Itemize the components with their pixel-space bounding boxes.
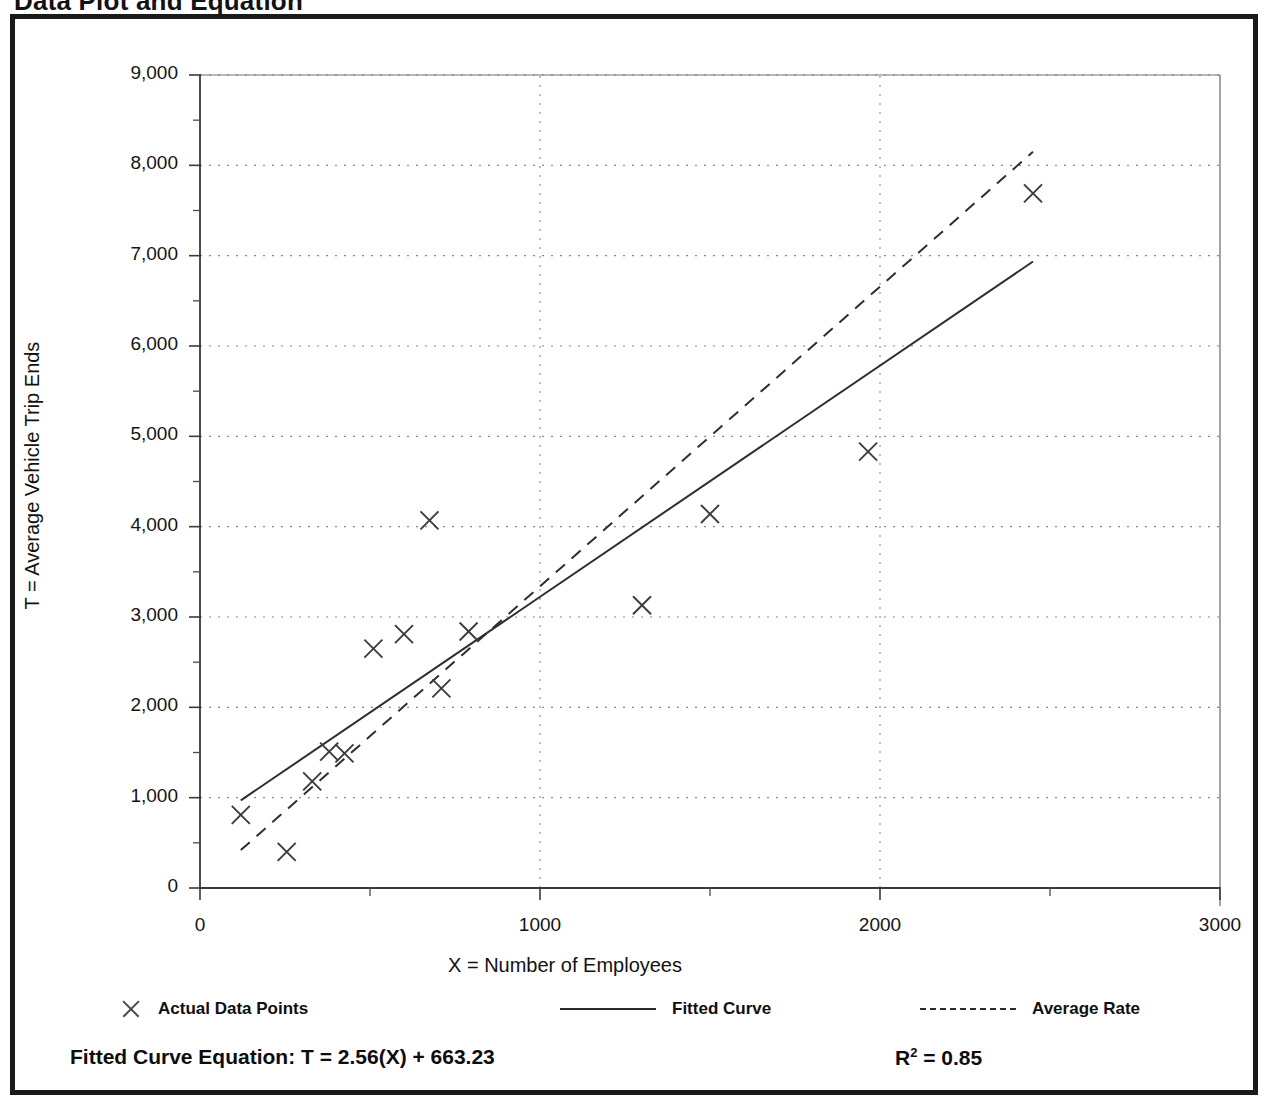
y-tick-label: 8,000 [88, 152, 178, 174]
plot-area: 01,0002,0003,0004,0005,0006,0007,0008,00… [15, 19, 1263, 1100]
data-point-marker [421, 511, 439, 529]
axis-ticks [189, 75, 1220, 900]
legend-item-fitted-curve[interactable]: Fitted Curve [560, 994, 771, 1024]
y-tick-label: 6,000 [88, 333, 178, 355]
data-point-marker [1024, 184, 1042, 202]
y-tick-label: 5,000 [88, 423, 178, 445]
y-tick-label: 7,000 [88, 243, 178, 265]
data-point-marker [859, 443, 877, 461]
chart-legend: Actual Data Points Fitted Curve Average … [15, 994, 1263, 1038]
y-tick-label: 3,000 [88, 604, 178, 626]
y-tick-label: 1,000 [88, 785, 178, 807]
fitted-curve-line [241, 262, 1033, 801]
legend-label-average-rate: Average Rate [1032, 999, 1140, 1019]
x-tick-label: 0 [155, 914, 245, 936]
data-point-markers [232, 184, 1042, 861]
r-squared-symbol: R [895, 1046, 910, 1069]
data-point-marker [232, 806, 250, 824]
x-axis-title: X = Number of Employees [15, 954, 1115, 977]
chart-canvas [15, 19, 1263, 1100]
equation-row: Fitted Curve Equation: T = 2.56(X) + 663… [15, 1041, 1263, 1087]
y-axis-title: T = Average Vehicle Trip Ends [21, 256, 44, 696]
y-tick-label: 9,000 [88, 62, 178, 84]
figure-frame: 01,0002,0003,0004,0005,0006,0007,0008,00… [10, 14, 1258, 1095]
data-point-marker [633, 596, 651, 614]
data-point-marker [432, 679, 450, 697]
r-squared-number: = 0.85 [917, 1046, 982, 1069]
y-tick-label: 4,000 [88, 514, 178, 536]
average-rate-line [241, 152, 1033, 850]
x-tick-label: 2000 [835, 914, 925, 936]
data-point-marker [701, 505, 719, 523]
y-tick-label: 0 [88, 875, 178, 897]
legend-item-average-rate[interactable]: Average Rate [920, 994, 1140, 1024]
solid-line-icon [560, 1008, 656, 1010]
axis-lines [200, 75, 1220, 906]
fitted-curve-equation: Fitted Curve Equation: T = 2.56(X) + 663… [70, 1045, 495, 1069]
x-tick-label: 3000 [1175, 914, 1265, 936]
x-tick-label: 1000 [495, 914, 585, 936]
data-point-marker [278, 843, 296, 861]
data-point-marker [395, 625, 413, 643]
data-point-marker [460, 622, 478, 640]
legend-label-actual-data-points: Actual Data Points [158, 999, 308, 1019]
legend-label-fitted-curve: Fitted Curve [672, 999, 771, 1019]
y-tick-label: 2,000 [88, 694, 178, 716]
dashed-line-icon [920, 1008, 1016, 1010]
x-marker-icon [120, 998, 142, 1020]
legend-item-actual-data-points[interactable]: Actual Data Points [120, 994, 308, 1024]
data-point-marker [364, 640, 382, 658]
r-squared-value: R2 = 0.85 [895, 1045, 982, 1070]
